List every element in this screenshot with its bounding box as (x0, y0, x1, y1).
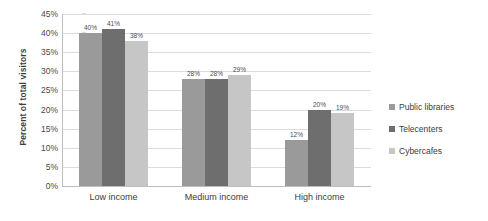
legend-label: Cybercafes (399, 147, 442, 156)
x-axis-category-label: High income (294, 192, 344, 203)
y-axis-tick-label: 0% (24, 182, 58, 191)
plot-area: 40%41%38%28%28%29%12%20%19% (62, 14, 371, 186)
bar-value-label: 38% (122, 32, 152, 39)
y-axis-tick-label: 35% (24, 48, 58, 57)
y-axis-tick-label: 5% (24, 163, 58, 172)
bar-chart: Percent of total visitors 0%5%10%15%20%2… (0, 0, 488, 221)
bar-group: 12%20%19% (268, 14, 371, 186)
legend-label: Telecenters (399, 125, 442, 134)
y-axis-tick-labels: 0%5%10%15%20%25%30%35%40%45% (24, 14, 58, 186)
x-axis-baseline (62, 186, 371, 187)
legend-item[interactable]: Public libraries (389, 96, 485, 118)
x-axis-category-labels: Low incomeMedium incomeHigh income (62, 192, 371, 210)
bar[interactable] (205, 79, 228, 186)
bar-value-label: 29% (225, 66, 255, 73)
y-axis-tick-label: 30% (24, 67, 58, 76)
y-axis-tick-label: 45% (24, 10, 58, 19)
legend-item[interactable]: Cybercafes (389, 140, 485, 162)
y-axis-tick-label: 25% (24, 86, 58, 95)
y-axis-tick-label: 10% (24, 144, 58, 153)
bar[interactable] (102, 29, 125, 186)
legend-item[interactable]: Telecenters (389, 118, 485, 140)
bar[interactable] (79, 33, 102, 186)
bars-layer: 40%41%38%28%28%29%12%20%19% (62, 14, 371, 186)
bar[interactable] (182, 79, 205, 186)
bar[interactable] (308, 110, 331, 186)
bar[interactable] (285, 140, 308, 186)
bar-group: 28%28%29% (165, 14, 268, 186)
bar-group: 40%41%38% (62, 14, 165, 186)
bar[interactable] (331, 113, 354, 186)
bar-value-label: 19% (328, 104, 358, 111)
x-axis-category-label: Low income (89, 192, 137, 203)
bar-value-label: 41% (99, 20, 129, 27)
legend-swatch-icon (389, 148, 395, 154)
bar[interactable] (228, 75, 251, 186)
y-axis-tick-label: 40% (24, 29, 58, 38)
chart-legend: Public librariesTelecentersCybercafes (389, 96, 485, 162)
legend-swatch-icon (389, 126, 395, 132)
y-axis-tick-label: 20% (24, 105, 58, 114)
x-axis-category-label: Medium income (185, 192, 249, 203)
legend-label: Public libraries (399, 103, 454, 112)
bar-value-label: 12% (282, 131, 312, 138)
y-axis-tick-label: 15% (24, 124, 58, 133)
legend-swatch-icon (389, 104, 395, 110)
bar[interactable] (125, 41, 148, 186)
